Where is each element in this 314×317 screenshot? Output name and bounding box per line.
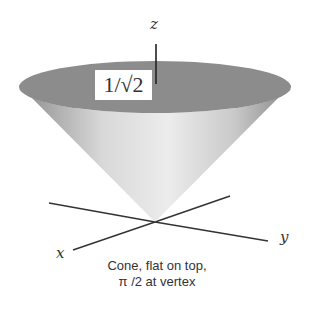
caption: Cone, flat on top, π /2 at vertex: [0, 258, 314, 290]
radius-value-label: 1/√2: [95, 70, 152, 100]
caption-line-1: Cone, flat on top,: [0, 258, 314, 274]
caption-line-2: π /2 at vertex: [0, 274, 314, 290]
z-axis-label: z: [150, 15, 158, 33]
x-axis: [73, 222, 155, 250]
y-axis-label: y: [280, 228, 288, 246]
y-axis: [155, 222, 268, 241]
cone-top-disk: [19, 61, 291, 113]
